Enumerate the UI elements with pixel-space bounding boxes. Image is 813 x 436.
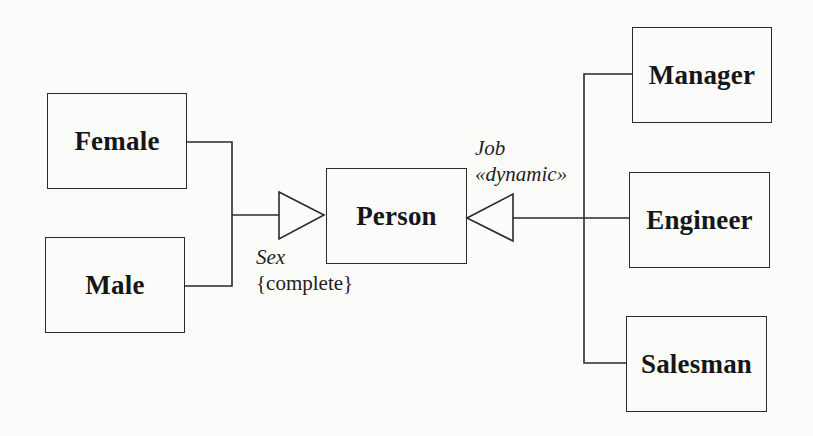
class-manager-name: Manager [649,60,755,91]
class-engineer[interactable]: Engineer [629,172,770,268]
class-male[interactable]: Male [45,237,185,333]
class-manager[interactable]: Manager [632,27,772,123]
class-salesman-name: Salesman [641,349,752,380]
job-generalization-label: Job «dynamic» [475,135,567,187]
sex-set-constraint: {complete} [256,270,353,296]
class-person-name: Person [356,201,437,232]
uml-class-diagram: Female Male Person Manager Engineer Sale… [0,0,813,436]
class-male-name: Male [85,270,144,301]
job-generalization-arrow [467,194,513,241]
job-set-stereotype: «dynamic» [475,161,567,187]
job-set-name: Job [475,135,567,161]
sex-generalization-arrow [279,192,324,239]
sex-generalization-label: Sex {complete} [256,244,353,296]
male-connector [185,215,232,286]
class-engineer-name: Engineer [646,205,753,236]
class-female[interactable]: Female [47,93,187,189]
class-female-name: Female [74,126,159,157]
sex-set-name: Sex [256,244,353,270]
female-connector [187,142,232,215]
class-salesman[interactable]: Salesman [626,316,767,412]
